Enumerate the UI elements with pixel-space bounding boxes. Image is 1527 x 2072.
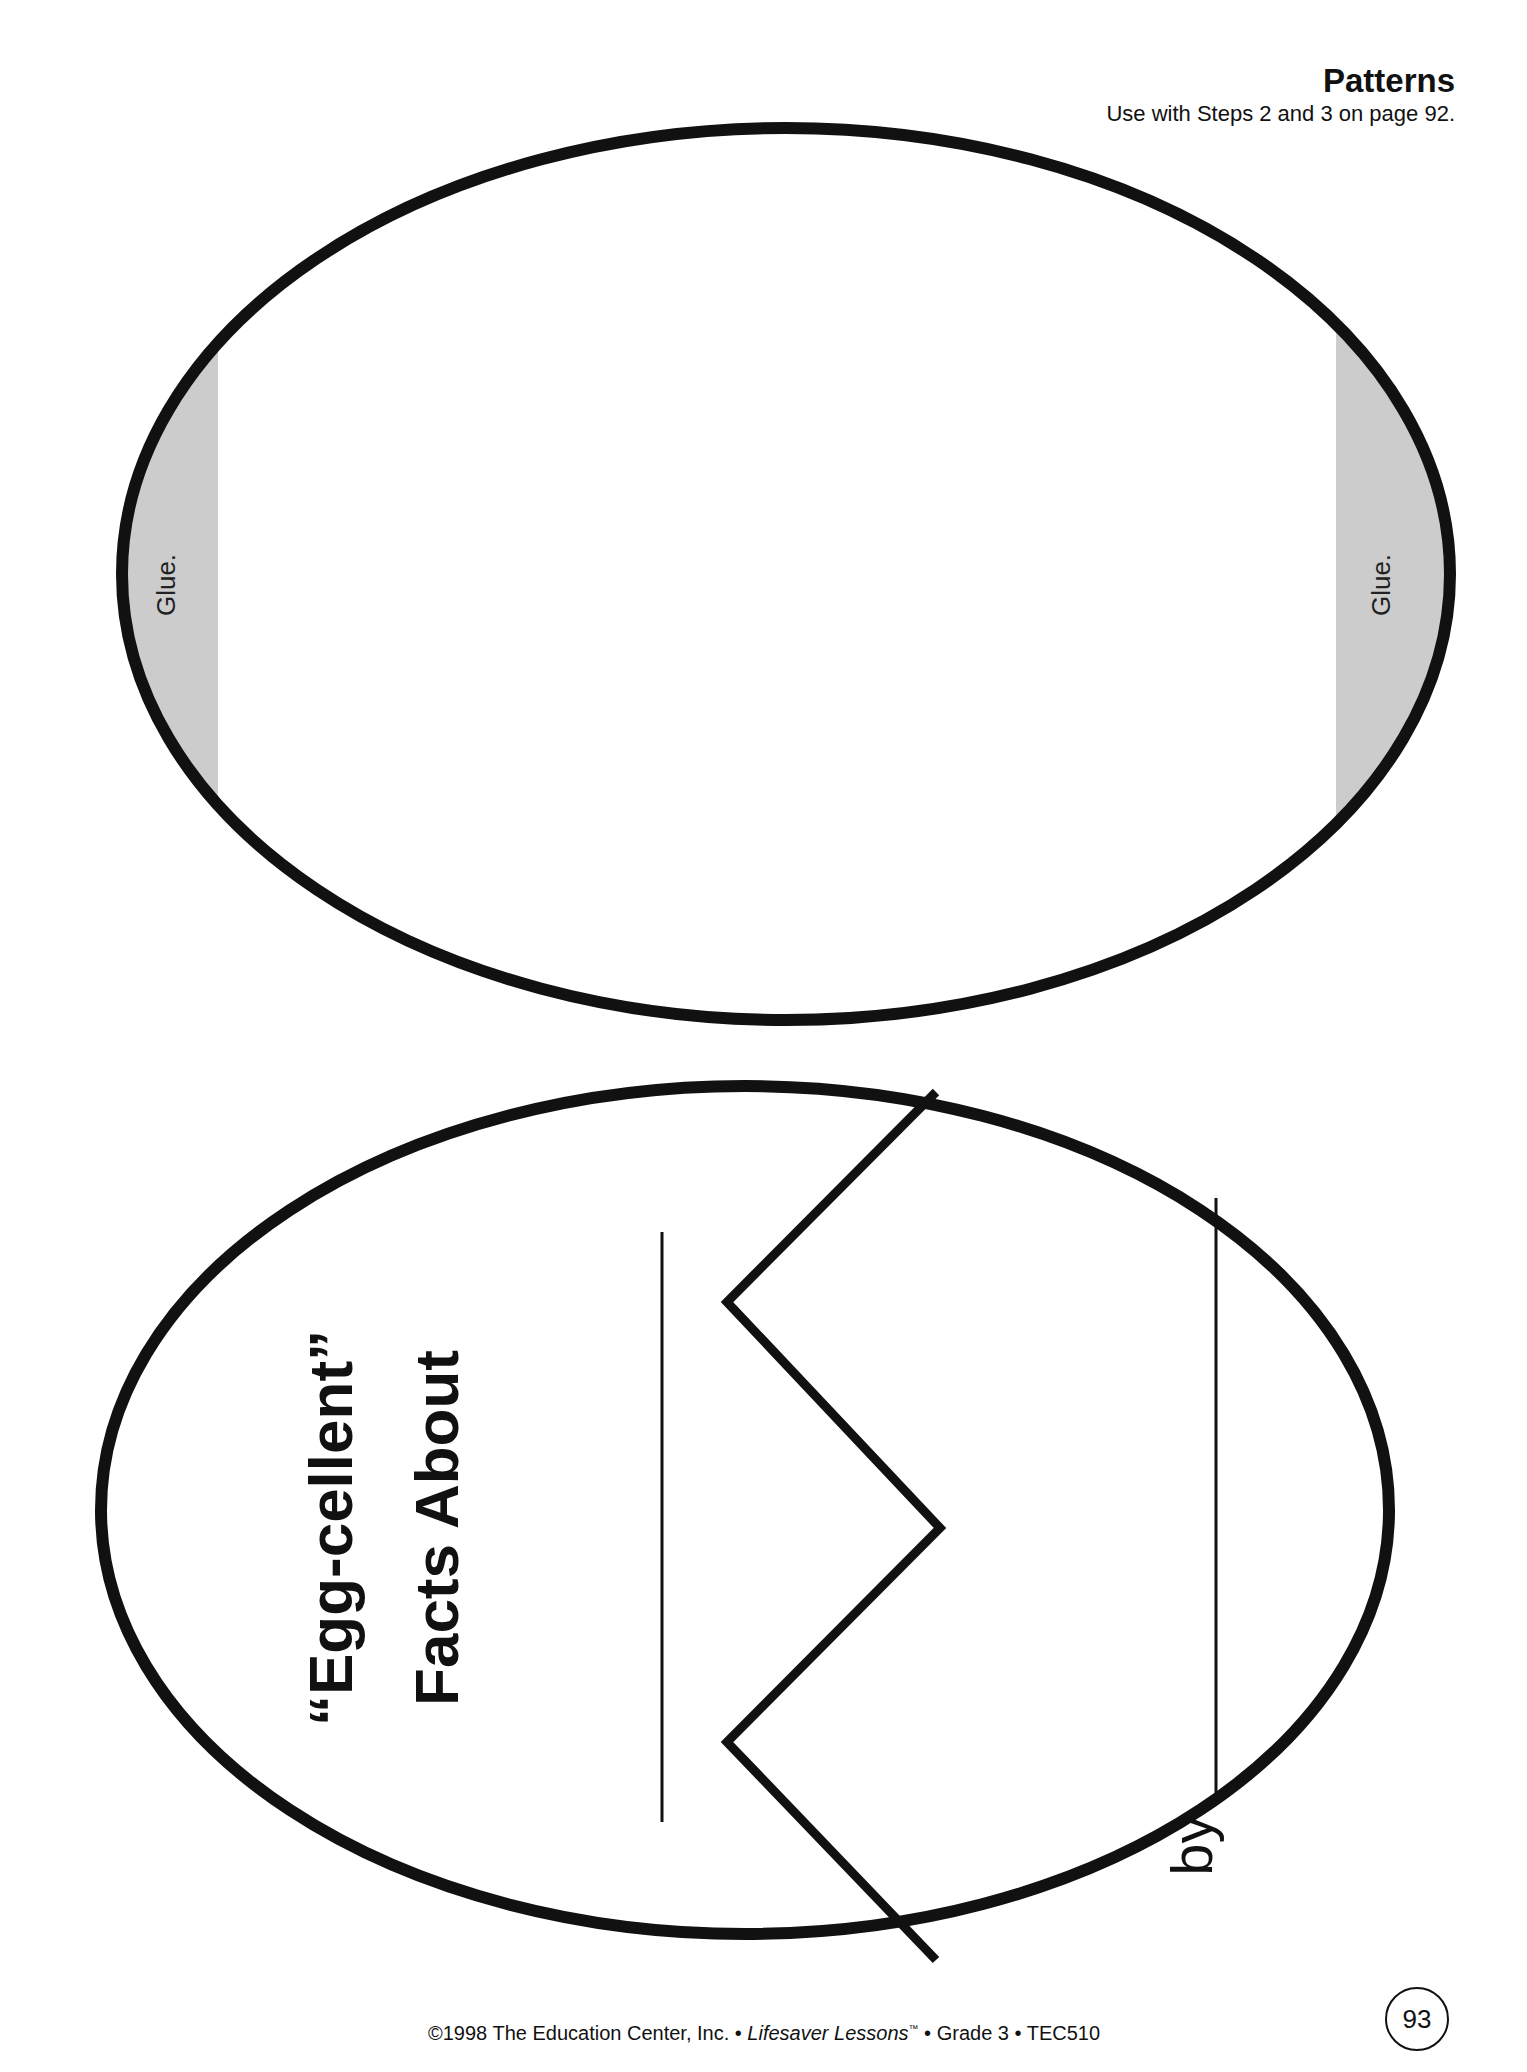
footer-copyright: ©1998 The Education Center, Inc. • xyxy=(428,2022,747,2044)
by-label: by xyxy=(1159,1814,1224,1875)
glue-label-left: Glue. xyxy=(151,554,181,616)
footer-grade-code: • Grade 3 • TEC510 xyxy=(919,2022,1101,2044)
glue-label-right: Glue. xyxy=(1366,554,1396,616)
footer-trademark: ™ xyxy=(909,2023,919,2034)
top-egg-pattern: Glue. Glue. xyxy=(100,128,1476,1020)
footer-series: Lifesaver Lessons xyxy=(747,2022,908,2044)
pattern-canvas: Glue. Glue. “Egg-cellent” Facts About by xyxy=(0,0,1527,2072)
cover-title-line2: Facts About xyxy=(402,1350,471,1706)
top-egg-outline xyxy=(122,128,1450,1020)
zigzag-crack-line xyxy=(727,1092,940,1960)
bottom-egg-outline xyxy=(101,1086,1389,1934)
page-number-badge: 93 xyxy=(1385,1987,1449,2051)
bottom-egg-pattern: “Egg-cellent” Facts About by xyxy=(101,1086,1389,1960)
footer-credits: ©1998 The Education Center, Inc. • Lifes… xyxy=(428,2022,1100,2045)
cover-title-line1: “Egg-cellent” xyxy=(296,1330,365,1726)
